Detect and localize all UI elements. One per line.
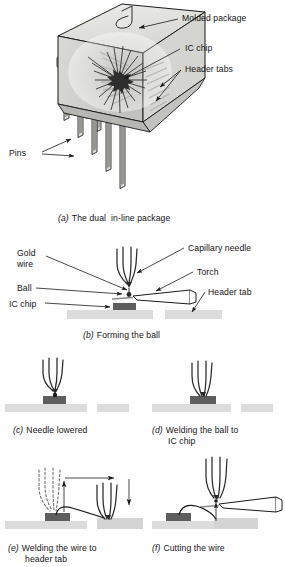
ghost-needle-e (39, 468, 60, 511)
caption-e-marker: (e) (8, 543, 19, 553)
ic-chip-block-c (43, 396, 66, 404)
substrate-right-b (165, 310, 222, 319)
caption-c-marker: (c) (13, 425, 23, 435)
wire-kink-f (214, 499, 218, 503)
caption-d-text-l1: Welding the ball to (163, 425, 238, 435)
torch-flame-line (112, 298, 133, 300)
panel-a-dip-package (42, 4, 205, 189)
label-molded-package: Molded package (182, 13, 246, 24)
ic-chip-block-d (190, 396, 216, 404)
label-header-tabs: Header tabs (185, 64, 233, 75)
panel-f-cutting-wire (152, 457, 282, 529)
substrate-left-e (5, 521, 87, 529)
caption-e-text-l1: Welding the wire to (19, 543, 97, 553)
torch-f (219, 497, 276, 512)
caption-a: (a)The dual in-line package (58, 213, 170, 224)
ball-b (127, 292, 132, 297)
ic-chip-block-b (113, 303, 136, 310)
panel-c-needle-lowered (5, 358, 129, 412)
caption-c-text: Needle lowered (23, 425, 87, 435)
capillary-needle-e (97, 483, 117, 519)
label-ic-chip-a: IC chip (185, 43, 212, 54)
label-ic-chip-b: IC chip (9, 299, 36, 310)
panel-d-welding-ball (152, 361, 273, 412)
caption-a-marker: (a) (58, 213, 69, 223)
figure-wire-bonding (0, 0, 285, 567)
caption-e-line2: header tab (25, 554, 67, 565)
substrate-right-e (97, 518, 143, 529)
label-torch: Torch (197, 267, 219, 278)
caption-a-text: The dual in-line package (69, 213, 171, 223)
caption-d: (d)Welding the ball to (152, 425, 238, 436)
caption-c: (c)Needle lowered (13, 425, 87, 436)
capillary-needle-f (206, 457, 227, 498)
caption-d-marker: (d) (152, 425, 163, 435)
torch-tail (190, 290, 196, 304)
substrate-left-b (67, 310, 153, 319)
torch-b (133, 290, 190, 304)
ic-chip-block-e (45, 513, 70, 521)
panel-e-welding-wire (5, 468, 143, 529)
substrate-left-c (5, 404, 87, 412)
caption-b-text: Forming the ball (94, 330, 160, 340)
torch-tail-f (276, 497, 282, 512)
label-header-tab: Header tab (208, 287, 252, 298)
capillary-needle-b (117, 247, 137, 284)
substrate-right-f (214, 518, 258, 529)
caption-e: (e)Welding the wire to (8, 543, 97, 554)
caption-f: (f)Cutting the wire (152, 543, 225, 554)
label-pins: Pins (9, 148, 26, 159)
caption-d-line2: IC chip (168, 436, 195, 447)
caption-f-text: Cutting the wire (160, 543, 224, 553)
capillary-needle-d (192, 361, 212, 396)
label-capillary-needle: Capillary needle (188, 243, 251, 254)
substrate-left-d (152, 404, 231, 412)
substrate-right-d (241, 404, 273, 412)
capillary-needle-c (43, 358, 63, 391)
substrate-right-c (97, 404, 129, 412)
ball-c (53, 393, 57, 397)
caption-b-marker: (b) (83, 330, 94, 340)
caption-b: (b)Forming the ball (83, 330, 160, 341)
panel-b-forming-ball (36, 247, 222, 319)
needle-tip-b (126, 282, 132, 288)
label-gold-wire: Gold wire (17, 248, 36, 270)
label-ball: Ball (17, 283, 32, 294)
label-gold-wire-text: Gold wire (17, 248, 36, 269)
ic-chip-block-f (166, 513, 191, 521)
